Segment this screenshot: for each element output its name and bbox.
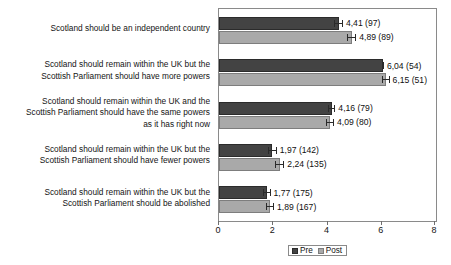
error-bar-post-1 [347,34,356,41]
category-label-line: Scotland should remain within the UK and… [0,96,210,107]
x-tick-label-8: 8 [419,225,449,235]
bar-pre-2 [219,59,383,72]
category-label-line: Scottish Parliament should have fewer po… [0,155,210,166]
legend-label-pre: Pre [300,246,313,255]
category-label-line: Scotland should remain within the UK but… [0,187,210,198]
value-label-post-3: 4,09 (80) [337,117,371,127]
error-bar-cap-left [382,76,383,83]
error-bar-cap-right [270,189,271,196]
x-tick-label-6: 6 [366,225,396,235]
value-label-post-4: 2,24 (135) [287,159,326,169]
value-label-pre-5: 1,77 (175) [274,188,313,198]
category-label-line: Scotland should remain within the UK but… [0,144,210,155]
error-bar-pre-3 [328,105,335,112]
value-label-post-2: 6,15 (51) [393,75,427,85]
value-label-pre-4: 1,97 (142) [280,145,319,155]
error-bar-pre-4 [268,147,277,154]
value-label-post-5: 1,89 (167) [277,202,316,212]
error-bar-pre-1 [334,20,343,27]
bar-post-1 [219,31,352,44]
value-label-post-1: 4,89 (89) [359,32,393,42]
error-bar-cap-right [283,161,284,168]
error-bar-cap-left [328,105,329,112]
error-bar-cap-right [334,105,335,112]
bar-pre-5 [219,186,267,199]
error-bar-post-2 [382,76,390,83]
error-bar-cap-left [326,119,327,126]
error-bar-cap-right [273,203,274,210]
chart-legend: PrePost [288,245,347,256]
legend-item-pre[interactable]: Pre [292,246,313,255]
error-bar-post-3 [326,119,334,126]
category-label-line: as it has right now [0,119,210,130]
category-label-line: Scottish Parliament should be abolished [0,198,210,209]
legend-item-post[interactable]: Post [318,246,342,255]
error-bar-cap-right [342,20,343,27]
x-tick-label-2: 2 [257,225,287,235]
category-label-4: Scotland should remain within the UK but… [0,144,210,166]
category-label-5: Scotland should remain within the UK but… [0,187,210,209]
error-bar-cap-left [263,189,264,196]
bar-post-2 [219,73,386,86]
error-bar-post-5 [266,203,274,210]
category-label-line: Scotland should remain within the UK but… [0,59,210,70]
error-bar-cap-right [276,147,277,154]
error-bar-pre-5 [263,189,270,196]
value-label-pre-2: 6,04 (54) [387,61,421,71]
plot-inner: 4,41 (97)6,04 (54)4,16 (79)1,97 (142)1,7… [219,9,436,221]
error-bar-cap-left [268,147,269,154]
x-tick-label-0: 0 [203,225,233,235]
bar-pre-4 [219,144,272,157]
error-bar-pre-2 [382,62,384,69]
horizontal-bar-chart: Scotland should be an independent countr… [0,0,451,265]
bar-post-5 [219,200,270,213]
legend-swatch-post [318,248,324,254]
error-bar-cap-left [347,34,348,41]
category-label-line: Scottish Parliament should have the same… [0,107,210,118]
error-bar-cap-left [275,161,276,168]
category-label-line: Scottish Parliament should have more pow… [0,71,210,82]
bar-post-4 [219,158,280,171]
error-bar-cap-left [266,203,267,210]
plot-area: 4,41 (97)6,04 (54)4,16 (79)1,97 (142)1,7… [218,8,437,222]
bar-post-3 [219,116,330,129]
error-bar-cap-right [355,34,356,41]
category-label-2: Scotland should remain within the UK but… [0,59,210,81]
error-bar-cap-right [383,62,384,69]
category-label-3: Scotland should remain within the UK and… [0,96,210,130]
x-tick-label-4: 4 [312,225,342,235]
category-axis-labels: Scotland should be an independent countr… [0,8,214,220]
error-bar-post-4 [275,161,284,168]
category-label-line: Scotland should be an independent countr… [0,23,210,34]
legend-label-post: Post [326,246,342,255]
error-bar-cap-left [334,20,335,27]
x-axis: 02468 [218,221,435,241]
value-label-pre-1: 4,41 (97) [346,18,380,28]
bar-pre-1 [219,17,339,30]
error-bar-cap-right [389,76,390,83]
value-label-pre-3: 4,16 (79) [338,103,372,113]
legend-swatch-pre [292,248,298,254]
category-label-1: Scotland should be an independent countr… [0,23,210,34]
error-bar-cap-right [333,119,334,126]
bar-pre-3 [219,102,332,115]
